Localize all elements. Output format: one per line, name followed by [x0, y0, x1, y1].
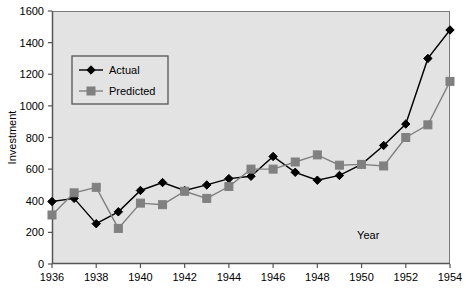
data-point-predicted-1940 — [136, 199, 144, 207]
legend-label-actual: Actual — [109, 64, 140, 76]
x-axis-tick-label: 1940 — [128, 271, 152, 283]
data-point-predicted-1942 — [181, 187, 189, 195]
y-axis-tick-label: 600 — [26, 163, 44, 175]
data-point-predicted-1946 — [269, 165, 277, 173]
data-point-predicted-1947 — [291, 158, 299, 166]
data-point-predicted-1951 — [380, 162, 388, 170]
y-axis-tick-label: 1600 — [20, 5, 44, 17]
data-point-predicted-1954 — [446, 77, 454, 85]
data-point-predicted-1939 — [114, 224, 122, 232]
data-point-predicted-1948 — [313, 151, 321, 159]
x-axis-tick-label: 1936 — [40, 271, 64, 283]
plot-area-background — [52, 11, 450, 264]
x-axis-tick-label: 1938 — [84, 271, 108, 283]
legend-label-predicted: Predicted — [109, 85, 155, 97]
x-axis-title: Year — [357, 229, 380, 241]
investment-line-chart: 0200400600800100012001400160019361938194… — [0, 0, 466, 300]
y-axis-tick-label: 800 — [26, 132, 44, 144]
data-point-predicted-1950 — [358, 160, 366, 168]
chart-figure: 0200400600800100012001400160019361938194… — [0, 0, 466, 300]
y-axis-tick-label: 1200 — [20, 68, 44, 80]
data-point-predicted-1938 — [92, 183, 100, 191]
x-axis-tick-label: 1952 — [394, 271, 418, 283]
data-point-predicted-1941 — [159, 201, 167, 209]
y-axis-tick-label: 0 — [38, 258, 44, 270]
x-axis-tick-label: 1950 — [349, 271, 373, 283]
y-axis-tick-label: 400 — [26, 195, 44, 207]
data-point-predicted-1952 — [402, 134, 410, 142]
data-point-predicted-1949 — [335, 161, 343, 169]
y-axis-tick-label: 200 — [26, 226, 44, 238]
y-axis-tick-label: 1400 — [20, 37, 44, 49]
chart-legend: ActualPredicted — [72, 56, 168, 104]
data-point-predicted-1943 — [203, 194, 211, 202]
data-point-predicted-1953 — [424, 121, 432, 129]
x-axis-tick-label: 1944 — [217, 271, 241, 283]
data-point-predicted-1937 — [70, 189, 78, 197]
y-axis-tick-label: 1000 — [20, 100, 44, 112]
data-point-predicted-1944 — [225, 183, 233, 191]
data-point-predicted-1945 — [247, 165, 255, 173]
x-axis-tick-label: 1942 — [172, 271, 196, 283]
legend-marker-predicted — [87, 87, 95, 95]
x-axis-tick-label: 1954 — [438, 271, 462, 283]
data-point-predicted-1936 — [48, 211, 56, 219]
x-axis-tick-label: 1948 — [305, 271, 329, 283]
x-axis-tick-label: 1946 — [261, 271, 285, 283]
y-axis-title: Investment — [6, 111, 18, 165]
